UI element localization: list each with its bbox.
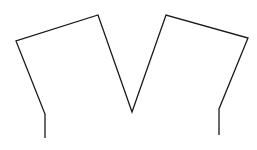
drawing-canvas: [0, 0, 257, 150]
line-drawing: [0, 0, 257, 150]
crown-outline-polyline: [16, 15, 248, 138]
